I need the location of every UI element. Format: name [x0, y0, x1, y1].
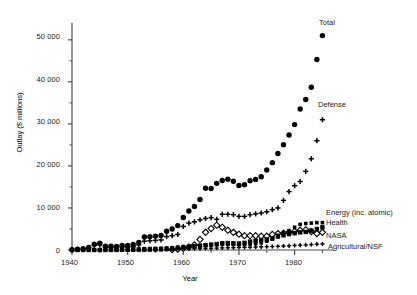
series-label-energy: Energy (inc. atomic): [326, 208, 393, 217]
y-tick-label-0: 0: [26, 246, 60, 255]
x-tick-label-1960: 1960: [173, 258, 190, 267]
y-tick-label-10000: 10 000: [20, 203, 60, 212]
series-label-total: Total: [319, 18, 335, 27]
x-tick-label-1980: 1980: [285, 258, 302, 267]
x-tick-label-1970: 1970: [229, 258, 246, 267]
x-tick-label-1950: 1950: [117, 258, 134, 267]
series-label-health: Health: [326, 218, 348, 227]
x-axis-title: Year: [150, 274, 230, 283]
series-label-nasa: NASA: [326, 231, 346, 240]
series-label-agri: Agricultural/NSF: [328, 242, 383, 251]
series-label-defense: Defense: [318, 100, 346, 109]
figure-container: Outlay ($ millions) Year 0 10 000 20 000…: [0, 0, 417, 295]
y-tick-label-50000: 50 000: [20, 32, 60, 41]
y-tick-label-30000: 30 000: [20, 117, 60, 126]
y-tick-label-20000: 20 000: [20, 160, 60, 169]
x-tick-label-1940: 1940: [61, 258, 78, 267]
y-tick-label-40000: 40 000: [20, 75, 60, 84]
